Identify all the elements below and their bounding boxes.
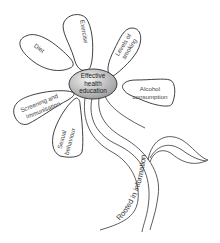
stem-line-upper: [105, 96, 145, 128]
center-label-line-1: Effective: [81, 72, 106, 79]
stem-line-right-2: [99, 98, 159, 230]
petal-diet: Diet: [20, 35, 73, 71]
petal-label: consumption: [132, 93, 168, 100]
petal-levels-of-smoking: Levels of smoking: [108, 28, 141, 76]
center-label-line-2: health: [84, 80, 102, 87]
petal-alcohol-consumption: Alcohol consumption: [123, 79, 175, 106]
petal-label: Alcohol: [140, 85, 160, 92]
health-education-flower-diagram: Diet Exercise Levels of smoking Alcohol …: [0, 0, 220, 243]
stem-label: Rooted in information: [114, 154, 147, 222]
center-node: Effective health education: [69, 69, 117, 99]
center-label-line-3: education: [79, 87, 107, 94]
